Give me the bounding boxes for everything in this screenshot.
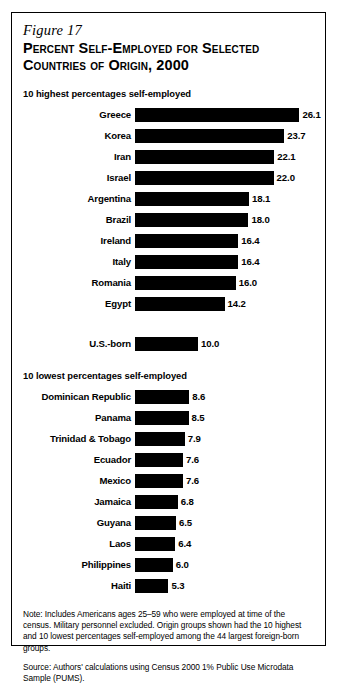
- bar-track: 6.4: [135, 537, 315, 551]
- group-header-lowest: 10 lowest percentages self-employed: [23, 370, 315, 381]
- bar-row: Haiti5.3: [23, 575, 315, 596]
- bar-track: 14.2: [135, 297, 315, 311]
- bar-value: 23.7: [284, 130, 305, 141]
- bar-fill: [135, 474, 183, 488]
- bar-row: Greece26.1: [23, 104, 315, 125]
- figure-number: Figure 17: [23, 22, 315, 38]
- bar-fill: [135, 432, 185, 446]
- bar-track: 6.0: [135, 558, 315, 572]
- bar-fill: [135, 276, 236, 290]
- bar-fill: [135, 337, 198, 351]
- bar-label: Mexico: [23, 475, 135, 486]
- bar-value: 10.0: [198, 338, 219, 349]
- bar-track: 22.0: [135, 171, 315, 185]
- page-title: Percent Self-Employed for Selected Count…: [23, 40, 313, 74]
- bar-row: Egypt14.2: [23, 293, 315, 314]
- bar-label: Greece: [23, 109, 135, 120]
- bar-row: Israel22.0: [23, 167, 315, 188]
- bar-label: Israel: [23, 172, 135, 183]
- bar-label: Philippines: [23, 559, 135, 570]
- bar-track: 6.8: [135, 495, 315, 509]
- bar-value: 22.0: [274, 172, 295, 183]
- bar-track: 7.9: [135, 432, 315, 446]
- bar-group-highest: Greece26.1Korea23.7Iran22.1Israel22.0Arg…: [23, 104, 315, 314]
- bar-value: 6.4: [175, 538, 191, 549]
- bar-value: 22.1: [274, 151, 295, 162]
- bar-track: 8.6: [135, 390, 315, 404]
- bar-label: Dominican Republic: [23, 391, 135, 402]
- bar-fill: [135, 453, 183, 467]
- bar-row: Ecuador7.6: [23, 449, 315, 470]
- bar-row: Romania16.0: [23, 272, 315, 293]
- bar-label: Ireland: [23, 235, 135, 246]
- bar-fill: [135, 516, 176, 530]
- bar-track: 26.1: [135, 108, 315, 122]
- bar-track: 23.7: [135, 129, 315, 143]
- bar-fill: [135, 495, 178, 509]
- bar-label: Italy: [23, 256, 135, 267]
- bar-fill: [135, 108, 299, 122]
- bar-row: Trinidad & Tobago7.9: [23, 428, 315, 449]
- bar-value: 26.1: [299, 109, 320, 120]
- bar-value: 6.5: [176, 517, 192, 528]
- bar-value: 16.4: [238, 235, 259, 246]
- bar-value: 6.0: [173, 559, 189, 570]
- bar-group-lowest: Dominican Republic8.6Panama8.5Trinidad &…: [23, 386, 315, 596]
- bar-value: 16.0: [236, 277, 257, 288]
- bar-track: 10.0: [135, 337, 315, 351]
- footnotes: Note: Includes Americans ages 25–59 who …: [12, 609, 325, 684]
- bar-track: 5.3: [135, 579, 315, 593]
- bar-value: 14.2: [225, 298, 246, 309]
- bar-row: Philippines6.0: [23, 554, 315, 575]
- bar-label: U.S.-born: [23, 338, 135, 349]
- bar-label: Brazil: [23, 214, 135, 225]
- bar-label: Romania: [23, 277, 135, 288]
- bar-value: 8.5: [189, 412, 205, 423]
- bar-fill: [135, 234, 238, 248]
- bar-row: Dominican Republic8.6: [23, 386, 315, 407]
- group-header-highest: 10 highest percentages self-employed: [23, 88, 315, 99]
- bar-track: 16.4: [135, 255, 315, 269]
- bar-row: U.S.-born10.0: [23, 333, 315, 354]
- bar-row: Korea23.7: [23, 125, 315, 146]
- bar-row: Argentina18.1: [23, 188, 315, 209]
- spacer-above-reference: [23, 314, 315, 328]
- bar-fill: [135, 411, 189, 425]
- bar-value: 7.6: [183, 454, 199, 465]
- bar-label: Jamaica: [23, 496, 135, 507]
- bar-label: Iran: [23, 151, 135, 162]
- bar-row: Mexico7.6: [23, 470, 315, 491]
- bar-value: 5.3: [168, 580, 184, 591]
- bar-label: Panama: [23, 412, 135, 423]
- bar-fill: [135, 558, 173, 572]
- bar-row: Panama8.5: [23, 407, 315, 428]
- bar-row: Jamaica6.8: [23, 491, 315, 512]
- bar-fill: [135, 213, 248, 227]
- bar-label: Argentina: [23, 193, 135, 204]
- figure-header-area: Figure 17 Percent Self-Employed for Sele…: [12, 13, 325, 596]
- bar-row: Ireland16.4: [23, 230, 315, 251]
- bar-value: 7.6: [183, 475, 199, 486]
- bar-value: 16.4: [238, 256, 259, 267]
- bar-label: Egypt: [23, 298, 135, 309]
- bar-label: Laos: [23, 538, 135, 549]
- bar-group-reference: U.S.-born10.0: [23, 333, 315, 354]
- bar-fill: [135, 192, 249, 206]
- bar-track: 16.0: [135, 276, 315, 290]
- bar-value: 18.1: [249, 193, 270, 204]
- bar-track: 18.1: [135, 192, 315, 206]
- bar-value: 18.0: [248, 214, 269, 225]
- bar-track: 7.6: [135, 453, 315, 467]
- bar-row: Guyana6.5: [23, 512, 315, 533]
- bar-row: Italy16.4: [23, 251, 315, 272]
- bar-label: Korea: [23, 130, 135, 141]
- bar-value: 6.8: [178, 496, 194, 507]
- source-text: Source: Authors' calculations using Cens…: [23, 662, 313, 684]
- bar-track: 7.6: [135, 474, 315, 488]
- bar-track: 16.4: [135, 234, 315, 248]
- bar-label: Guyana: [23, 517, 135, 528]
- bar-label: Ecuador: [23, 454, 135, 465]
- bar-fill: [135, 537, 175, 551]
- bar-fill: [135, 579, 168, 593]
- bar-row: Laos6.4: [23, 533, 315, 554]
